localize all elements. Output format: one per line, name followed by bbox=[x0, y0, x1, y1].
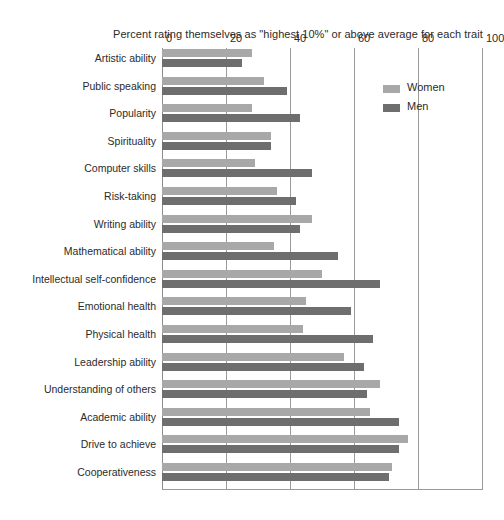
bar-group: Leadership ability bbox=[0, 352, 495, 379]
bar-women bbox=[162, 187, 277, 195]
bar-women bbox=[162, 463, 392, 471]
category-label: Drive to achieve bbox=[6, 438, 161, 450]
bar-group: Physical health bbox=[0, 324, 495, 351]
category-label: Intellectual self-confidence bbox=[6, 273, 161, 285]
bar-women bbox=[162, 132, 271, 140]
bar-men bbox=[162, 169, 312, 177]
legend: WomenMen bbox=[383, 81, 483, 119]
bar-women bbox=[162, 408, 370, 416]
bar-women bbox=[162, 104, 252, 112]
bar-group: Computer skills bbox=[0, 158, 495, 185]
bar-men bbox=[162, 445, 399, 453]
category-label: Artistic ability bbox=[6, 52, 161, 64]
bar-women bbox=[162, 325, 303, 333]
legend-item-men: Men bbox=[383, 100, 483, 119]
bar-men bbox=[162, 363, 364, 371]
bar-men bbox=[162, 280, 380, 288]
bar-women bbox=[162, 353, 344, 361]
category-label: Popularity bbox=[6, 107, 161, 119]
bar-group: Academic ability bbox=[0, 407, 495, 434]
bar-group: Emotional health bbox=[0, 296, 495, 323]
bar-women bbox=[162, 159, 255, 167]
bar-men bbox=[162, 142, 271, 150]
category-label: Public speaking bbox=[6, 80, 161, 92]
bar-men bbox=[162, 225, 300, 233]
category-label: Spirituality bbox=[6, 135, 161, 147]
bar-men bbox=[162, 307, 351, 315]
bar-group: Mathematical ability bbox=[0, 241, 495, 268]
category-label: Understanding of others bbox=[6, 383, 161, 395]
legend-label: Women bbox=[407, 81, 445, 93]
category-label: Academic ability bbox=[6, 411, 161, 423]
category-label: Computer skills bbox=[6, 162, 161, 174]
bar-women bbox=[162, 270, 322, 278]
bar-group: Drive to achieve bbox=[0, 434, 495, 461]
bar-men bbox=[162, 252, 338, 260]
bar-women bbox=[162, 242, 274, 250]
bar-men bbox=[162, 335, 373, 343]
bar-group: Artistic ability bbox=[0, 48, 495, 75]
legend-label: Men bbox=[407, 100, 428, 112]
bar-men bbox=[162, 473, 389, 481]
bar-women bbox=[162, 380, 380, 388]
category-label: Cooperativeness bbox=[6, 466, 161, 478]
bar-women bbox=[162, 297, 306, 305]
bar-men bbox=[162, 59, 242, 67]
category-label: Leadership ability bbox=[6, 356, 161, 368]
bar-group: Intellectual self-confidence bbox=[0, 269, 495, 296]
bar-men bbox=[162, 114, 300, 122]
bar-group: Cooperativeness bbox=[0, 462, 495, 489]
category-label: Writing ability bbox=[6, 218, 161, 230]
bar-men bbox=[162, 418, 399, 426]
category-label: Emotional health bbox=[6, 300, 161, 312]
category-label: Mathematical ability bbox=[6, 245, 161, 257]
legend-swatch-icon bbox=[383, 104, 400, 112]
bar-group: Risk-taking bbox=[0, 186, 495, 213]
bar-women bbox=[162, 435, 408, 443]
bar-group: Spirituality bbox=[0, 131, 495, 158]
legend-swatch-icon bbox=[383, 85, 400, 93]
category-label: Risk-taking bbox=[6, 190, 161, 202]
bar-women bbox=[162, 49, 252, 57]
bar-women bbox=[162, 215, 312, 223]
bar-men bbox=[162, 87, 287, 95]
category-label: Physical health bbox=[6, 328, 161, 340]
bar-men bbox=[162, 197, 296, 205]
legend-item-women: Women bbox=[383, 81, 483, 100]
bar-group: Understanding of others bbox=[0, 379, 495, 406]
bar-women bbox=[162, 77, 264, 85]
bar-group: Writing ability bbox=[0, 214, 495, 241]
bar-men bbox=[162, 390, 367, 398]
